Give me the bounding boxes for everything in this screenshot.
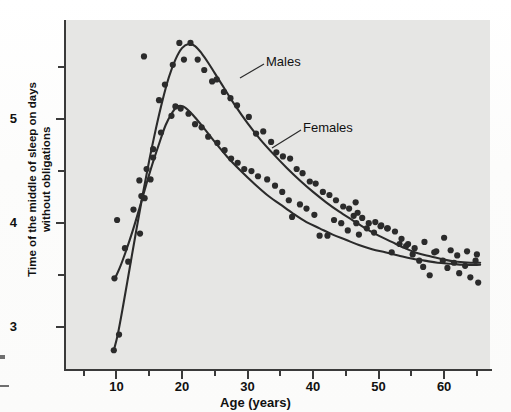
x-tick-major <box>115 371 117 379</box>
page-edge-mark-bottom <box>0 385 9 387</box>
x-tick-label: 20 <box>162 380 202 393</box>
x-tick-minor <box>279 371 281 376</box>
x-tick-label: 30 <box>228 380 268 393</box>
y-tick-label: 5 <box>10 112 17 125</box>
y-tick-major <box>56 118 64 120</box>
y-tick-major <box>56 222 64 224</box>
y-tick-label: 3 <box>10 320 17 333</box>
x-tick-major <box>443 371 445 379</box>
x-tick-label: 60 <box>424 380 464 393</box>
y-tick-minor <box>58 170 64 172</box>
page-edge-mark-top <box>0 355 5 359</box>
y-tick-major <box>56 326 64 328</box>
x-tick-minor <box>345 371 347 376</box>
x-tick-label: 10 <box>96 380 136 393</box>
y-tick-label: 4 <box>10 216 17 229</box>
series-label-females: Females <box>303 120 353 135</box>
plot-area <box>64 20 490 369</box>
x-tick-major <box>312 371 314 379</box>
x-axis-title: Age (years) <box>0 395 511 410</box>
y-tick-minor <box>58 66 64 68</box>
y-tick-minor <box>58 274 64 276</box>
x-tick-label: 40 <box>293 380 333 393</box>
x-tick-major <box>181 371 183 379</box>
x-tick-minor <box>476 371 478 376</box>
x-axis-line <box>64 369 492 371</box>
x-tick-major <box>378 371 380 379</box>
x-tick-minor <box>214 371 216 376</box>
x-tick-major <box>247 371 249 379</box>
x-tick-label: 50 <box>359 380 399 393</box>
series-label-males: Males <box>266 54 301 69</box>
chart-figure: 345 102030405060 Time of the middle of s… <box>0 0 511 412</box>
y-axis-title: Time of the middle of sleep on days with… <box>25 79 54 279</box>
x-tick-minor <box>148 371 150 376</box>
x-tick-minor <box>83 371 85 376</box>
x-tick-minor <box>410 371 412 376</box>
y-axis-line <box>64 20 66 371</box>
